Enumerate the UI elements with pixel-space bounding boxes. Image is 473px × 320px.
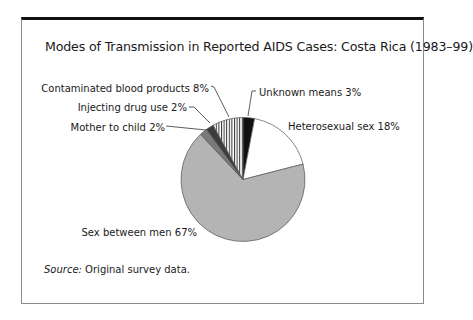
label-mother-to-child: Mother to child 2% — [71, 122, 165, 133]
leader-line-injecting-drug — [189, 107, 210, 123]
leader-line-mother-to-child — [166, 126, 206, 130]
label-heterosexual-sex: Heterosexual sex 18% — [288, 121, 400, 132]
source-label: Source: — [44, 264, 82, 275]
pie-slices — [181, 118, 305, 242]
source-note: Source: Original survey data. — [44, 264, 190, 275]
label-injecting-drug-use: Injecting drug use 2% — [78, 102, 187, 113]
label-sex-between-men: Sex between men 67% — [82, 227, 197, 238]
label-unknown-means: Unknown means 3% — [259, 87, 361, 98]
source-text: Original survey data. — [82, 264, 190, 275]
leader-line-contaminated-blood — [211, 86, 229, 117]
label-contaminated-blood: Contaminated blood products 8% — [41, 83, 209, 94]
leader-line-unknown-means — [248, 91, 256, 116]
